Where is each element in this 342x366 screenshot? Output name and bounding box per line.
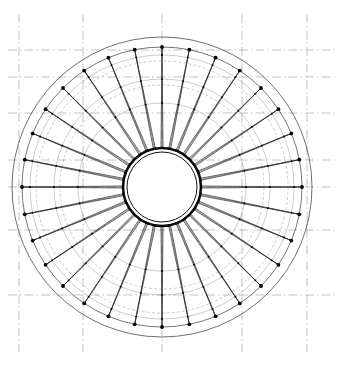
strut-node-7-2 <box>243 170 245 172</box>
strut-node-16-2 <box>161 270 163 272</box>
strut-node-26-0 <box>39 136 41 138</box>
radial-cable-center-12 <box>190 215 261 286</box>
strut-node-2-2 <box>193 109 195 111</box>
strut-node-14-1 <box>202 286 204 288</box>
strut-node-22-0 <box>39 237 41 239</box>
strut-node-18-0 <box>111 308 113 310</box>
radial-cable-center-4 <box>190 88 261 159</box>
strut-node-12-1 <box>237 262 239 264</box>
strut-node-7-0 <box>291 160 293 162</box>
strut-node-8-0 <box>293 186 295 188</box>
strut-node-26-2 <box>84 154 86 156</box>
outer-node-8 <box>300 185 304 189</box>
hub-anchor-node-29-1 <box>140 153 142 155</box>
drawing-sheet <box>0 0 342 366</box>
strut-node-10-0 <box>283 237 285 239</box>
hub-anchor-node-3-1 <box>183 154 185 156</box>
radial-cable-center-31 <box>135 50 155 149</box>
outer-node-3 <box>238 69 242 73</box>
strut-node-25-2 <box>79 170 81 172</box>
strut-node-26-1 <box>61 145 63 147</box>
outer-node-4 <box>259 86 263 90</box>
strut-node-31-1 <box>140 80 142 82</box>
strut-node-30-1 <box>120 86 122 88</box>
hub-anchor-node-17-1 <box>152 224 154 226</box>
strut-node-31-2 <box>145 104 147 106</box>
strut-node-2-1 <box>202 86 204 88</box>
outer-node-7 <box>297 158 301 162</box>
hub-anchor-node-4-1 <box>189 159 191 161</box>
outer-node-2 <box>214 56 218 60</box>
hub-anchor-node-2-0 <box>175 149 177 151</box>
outer-node-27 <box>44 107 48 111</box>
outer-node-20 <box>61 284 65 288</box>
outer-node-14 <box>214 314 218 318</box>
radial-cable-center-15 <box>170 225 190 324</box>
hub-anchor-node-5-1 <box>194 165 196 167</box>
strut-node-6-2 <box>239 154 241 156</box>
hub-anchor-node-23-1 <box>122 193 124 195</box>
strut-node-17-1 <box>140 292 142 294</box>
outer-node-23 <box>23 212 27 216</box>
strut-node-5-0 <box>271 113 273 115</box>
strut-node-21-1 <box>71 246 73 248</box>
strut-node-9-2 <box>243 202 245 204</box>
hub-anchor-node-31-0 <box>152 148 154 150</box>
radial-cable-center-25 <box>25 160 124 180</box>
radial-cable-center-7 <box>200 160 299 180</box>
strut-node-28-1 <box>85 110 87 112</box>
outer-node-22 <box>31 239 35 243</box>
strut-node-31-0 <box>135 57 137 59</box>
strut-node-12-2 <box>220 245 222 247</box>
strut-node-10-1 <box>261 227 263 229</box>
outer-node-10 <box>289 239 293 243</box>
strut-node-15-0 <box>187 316 189 318</box>
hub-anchor-node-10-0 <box>197 200 199 202</box>
outer-node-29 <box>82 69 86 73</box>
hub-anchor-node-16-1 <box>160 225 162 227</box>
strut-node-22-2 <box>84 218 86 220</box>
strut-node-3-1 <box>221 96 223 98</box>
hub-anchor-node-15-1 <box>168 224 170 226</box>
outer-node-11 <box>277 263 281 267</box>
strut-node-5-1 <box>251 126 253 128</box>
strut-node-13-2 <box>208 256 210 258</box>
outer-node-26 <box>31 132 35 136</box>
strut-node-2-0 <box>212 64 214 66</box>
strut-node-4-2 <box>220 127 222 129</box>
strut-node-10-2 <box>239 218 241 220</box>
strut-node-19-0 <box>88 296 90 298</box>
outer-node-1 <box>187 48 191 52</box>
hub-anchor-node-10-1 <box>197 202 199 204</box>
hub-anchor-node-15-0 <box>170 224 172 226</box>
hub-anchor-node-23-0 <box>123 195 125 197</box>
outer-node-0 <box>160 45 164 49</box>
hub-anchor-node-6-0 <box>197 170 199 172</box>
strut-node-4-1 <box>237 110 239 112</box>
strut-node-8-2 <box>245 186 247 188</box>
strut-node-13-1 <box>221 276 223 278</box>
strut-node-30-2 <box>129 109 131 111</box>
hub-anchor-node-24-0 <box>122 187 124 189</box>
outer-node-25 <box>23 158 27 162</box>
radial-cable-center-17 <box>135 225 155 324</box>
strut-node-1-1 <box>182 80 184 82</box>
hub-anchor-node-27-1 <box>129 163 131 165</box>
hub-anchor-node-24-1 <box>122 185 124 187</box>
strut-node-18-1 <box>120 286 122 288</box>
strut-node-20-1 <box>85 262 87 264</box>
strut-node-20-2 <box>102 245 104 247</box>
hub-anchor-node-26-1 <box>125 170 127 172</box>
hub-anchor-node-18-0 <box>147 222 149 224</box>
radial-cable-center-9 <box>200 195 299 215</box>
hub-anchor-node-6-1 <box>197 172 199 174</box>
strut-node-14-0 <box>212 308 214 310</box>
strut-node-11-0 <box>271 259 273 261</box>
hub-anchor-node-14-1 <box>175 222 177 224</box>
outer-node-17 <box>133 322 137 326</box>
strut-node-20-0 <box>68 279 70 281</box>
strut-node-27-2 <box>91 139 93 141</box>
hub-anchor-node-0-1 <box>162 147 164 149</box>
strut-node-3-0 <box>234 76 236 78</box>
hub-anchor-node-31-1 <box>154 147 156 149</box>
